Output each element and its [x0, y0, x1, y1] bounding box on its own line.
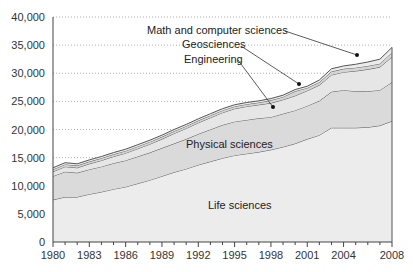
x-axis-tick-labels: 1980198319861989199219951998200120042008: [41, 249, 404, 261]
y-tick-label: 35,000: [11, 39, 45, 51]
y-tick-label: 30,000: [11, 67, 45, 79]
y-tick-label: 20,000: [11, 124, 45, 136]
x-tick-label: 1980: [41, 249, 65, 261]
y-axis-tick-labels: 05,00010,00015,00020,00025,00030,00035,0…: [11, 11, 45, 248]
label-life-sciences: Life sciences: [208, 199, 272, 211]
x-tick-label: 1998: [259, 249, 283, 261]
x-tick-label: 2008: [380, 249, 404, 261]
x-tick-label: 1989: [150, 249, 174, 261]
marker-geo: [297, 82, 301, 86]
y-tick-label: 25,000: [11, 95, 45, 107]
pointer-geo: [241, 46, 299, 84]
x-tick-label: 2004: [331, 249, 355, 261]
x-tick-label: 1995: [222, 249, 246, 261]
y-tick-label: 0: [39, 236, 45, 248]
x-tick-label: 1986: [113, 249, 137, 261]
x-tick-label: 1992: [186, 249, 210, 261]
pointer-math: [285, 31, 357, 55]
label-geosciences: Geosciences: [182, 38, 246, 50]
x-tick-label: 2001: [295, 249, 319, 261]
marker-math: [355, 53, 359, 57]
y-tick-label: 40,000: [11, 11, 45, 23]
y-tick-label: 5,000: [17, 208, 45, 220]
pointer-eng: [238, 60, 273, 107]
y-tick-label: 15,000: [11, 152, 45, 164]
label-physical-sciences: Physical sciences: [186, 138, 273, 150]
stacked-area-chart: 05,00010,00015,00020,00025,00030,00035,0…: [0, 0, 413, 272]
x-tick-label: 1983: [77, 249, 101, 261]
y-tick-label: 10,000: [11, 180, 45, 192]
label-engineering: Engineering: [184, 53, 243, 65]
marker-eng: [271, 105, 275, 109]
label-math-computer-sciences: Math and computer sciences: [147, 24, 288, 36]
